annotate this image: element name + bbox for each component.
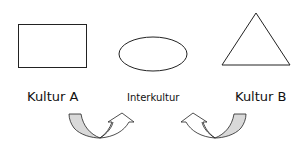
- left-curved-arrow-icon: [69, 113, 134, 138]
- triangle-shape: [222, 13, 290, 65]
- rectangle-shape: [19, 25, 87, 68]
- interkultur-label: Interkultur: [127, 92, 179, 103]
- kultur-a-label: Kultur A: [27, 89, 78, 104]
- ellipse-shape: [119, 37, 187, 71]
- diagram-canvas: [0, 0, 303, 151]
- kultur-b-label: Kultur B: [235, 89, 286, 104]
- right-curved-arrow-icon: [181, 113, 246, 138]
